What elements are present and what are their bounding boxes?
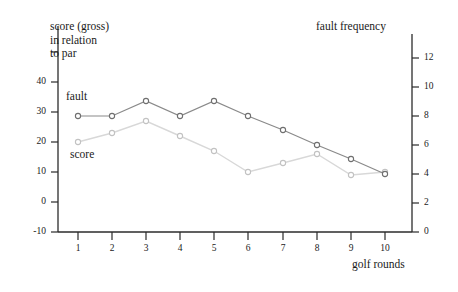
x-tick-label-3: 3 [135, 243, 157, 253]
x-tick-label-5: 5 [203, 243, 225, 253]
y-tick-label-left-minus10: -10 [20, 226, 46, 236]
x-tick-label-4: 4 [169, 243, 191, 253]
series-markers-fault [75, 98, 387, 176]
x-axis-title: golf rounds [352, 258, 405, 272]
y-axis-right-title: fault frequency [316, 20, 386, 34]
y-axis-right-ticks [412, 58, 419, 232]
y-tick-label-right-10: 10 [424, 81, 450, 91]
series-annotation-score: score [70, 148, 94, 160]
y-tick-label-left-30: 30 [20, 106, 46, 116]
y-tick-label-right-12: 12 [424, 52, 450, 62]
x-tick-label-9: 9 [340, 243, 362, 253]
y-tick-label-left-0: 0 [20, 196, 46, 206]
series-line-score [78, 121, 385, 175]
x-tick-label-1: 1 [67, 243, 89, 253]
series-line-fault [78, 101, 385, 174]
x-tick-label-8: 8 [306, 243, 328, 253]
y-tick-label-left-10: 10 [20, 166, 46, 176]
y-tick-label-right-4: 4 [424, 168, 450, 178]
y-tick-label-right-0: 0 [424, 226, 450, 236]
y-tick-label-left-20: 20 [20, 136, 46, 146]
y-tick-label-right-2: 2 [424, 197, 450, 207]
x-axis-ticks [78, 232, 385, 240]
x-tick-label-10: 10 [374, 243, 396, 253]
y-tick-label-left-40: 40 [20, 76, 46, 86]
y-tick-label-right-8: 8 [424, 110, 450, 120]
series-annotation-fault: fault [66, 90, 87, 102]
y-tick-label-right-6: 6 [424, 139, 450, 149]
y-axis-left-title: score (gross) in relation to par [50, 20, 109, 61]
x-tick-label-2: 2 [101, 243, 123, 253]
x-tick-label-6: 6 [237, 243, 259, 253]
x-tick-label-7: 7 [272, 243, 294, 253]
chart-figure: score (gross) in relation to par fault f… [0, 0, 458, 292]
y-axis-left-ticks [51, 52, 58, 232]
